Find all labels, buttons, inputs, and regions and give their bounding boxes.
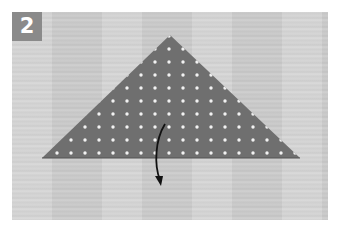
folded-paper-figure — [0, 0, 339, 231]
step-number-badge: 2 — [12, 12, 42, 41]
